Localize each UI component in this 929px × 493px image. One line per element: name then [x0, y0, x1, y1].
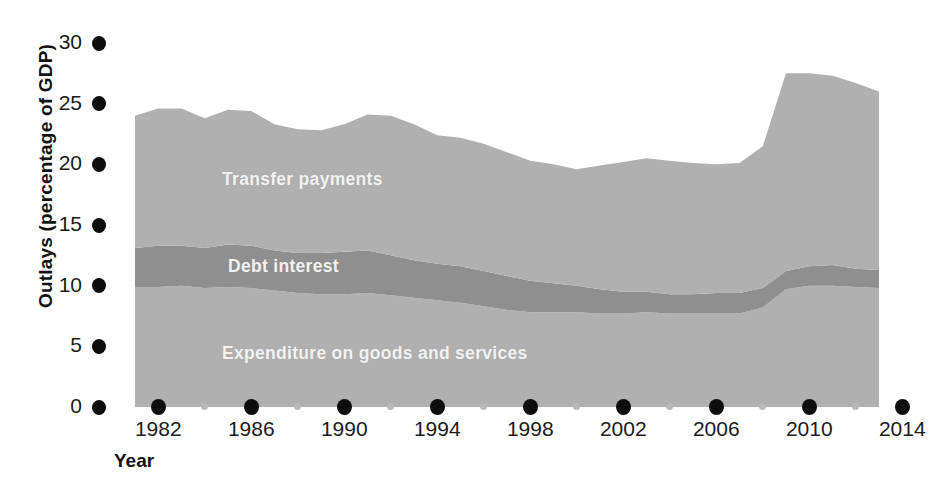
x-tick-label: 1982	[118, 417, 198, 441]
x-tick-dot-major	[430, 399, 445, 415]
x-tick-dot-major	[151, 399, 166, 415]
x-axis-title: Year	[114, 450, 154, 472]
x-tick-dot-major	[244, 399, 259, 415]
x-tick-label: 2002	[583, 417, 663, 441]
x-tick-dot-major	[337, 399, 352, 415]
x-tick-dot-major	[709, 399, 724, 415]
x-tick-dot-major	[895, 399, 910, 415]
y-tick-dot	[92, 36, 106, 51]
x-tick-dot-major	[616, 399, 631, 415]
y-tick-label: 25	[42, 91, 82, 115]
chart-figure: Outlays (percentage of GDP) 051015202530…	[0, 0, 929, 493]
y-tick-label: 15	[42, 212, 82, 236]
y-tick-label: 20	[42, 151, 82, 175]
x-tick-dot-major	[523, 399, 538, 415]
y-tick-dot	[92, 339, 106, 354]
y-tick-label: 0	[42, 394, 82, 418]
y-tick-dot	[92, 400, 106, 415]
x-tick-label: 2014	[862, 417, 929, 441]
x-tick-label: 1986	[211, 417, 291, 441]
x-tick-label: 2006	[676, 417, 756, 441]
y-tick-label: 5	[42, 333, 82, 357]
x-tick-label: 1998	[490, 417, 570, 441]
series-label-debt-interest: Debt interest	[228, 256, 339, 277]
y-tick-label: 30	[42, 30, 82, 54]
x-tick-dot-major	[802, 399, 817, 415]
x-tick-label: 1990	[304, 417, 384, 441]
series-label-expenditure: Expenditure on goods and services	[222, 343, 528, 364]
y-tick-label: 10	[42, 273, 82, 297]
series-label-transfer-payments: Transfer payments	[222, 169, 383, 190]
x-tick-label: 2010	[769, 417, 849, 441]
x-tick-label: 1994	[397, 417, 477, 441]
y-tick-dot	[92, 157, 106, 172]
y-tick-dot	[92, 218, 106, 233]
